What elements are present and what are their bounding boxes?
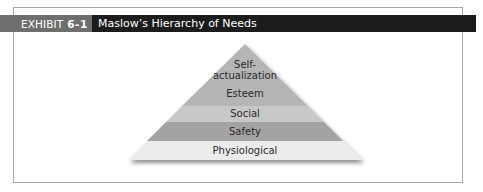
label-social: Social [145, 108, 345, 119]
label-self-actualization-line2: actualization [145, 70, 345, 81]
label-self-actualization-line1: Self- [145, 59, 345, 70]
label-safety: Safety [145, 126, 345, 137]
label-physiological: Physiological [145, 145, 345, 156]
label-esteem: Esteem [145, 88, 345, 99]
